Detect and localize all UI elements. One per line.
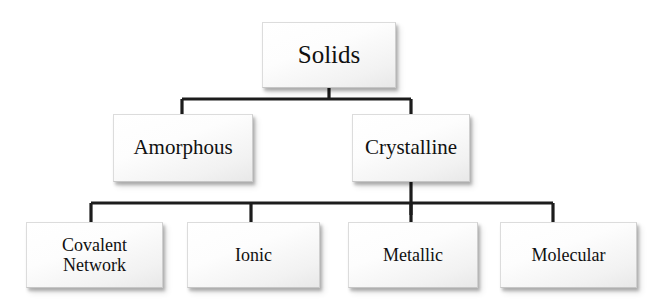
node-ionic-label: Ionic	[231, 245, 276, 265]
node-crystalline-label: Crystalline	[361, 136, 461, 160]
node-molecular: Molecular	[500, 222, 637, 288]
node-metallic-label: Metallic	[379, 245, 447, 265]
node-crystalline: Crystalline	[352, 114, 470, 182]
node-solids-label: Solids	[294, 41, 365, 69]
diagram-canvas: Solids Amorphous Crystalline Covalent Ne…	[0, 0, 657, 301]
node-solids: Solids	[262, 22, 396, 88]
node-amorphous: Amorphous	[113, 114, 253, 182]
node-ionic: Ionic	[187, 222, 320, 288]
node-covalent-network: Covalent Network	[26, 222, 163, 288]
node-amorphous-label: Amorphous	[129, 136, 236, 160]
node-molecular-label: Molecular	[528, 245, 610, 265]
node-metallic: Metallic	[348, 222, 478, 288]
node-covalent-network-label: Covalent Network	[58, 235, 131, 275]
